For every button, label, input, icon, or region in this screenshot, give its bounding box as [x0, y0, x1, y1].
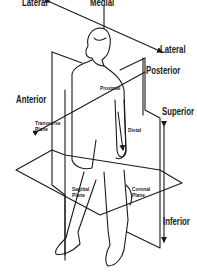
label-lateral-left: Lateral [22, 0, 48, 8]
label-coronal-plane: Coronal Plane [132, 186, 150, 199]
label-inferior: Inferior [163, 217, 190, 227]
human-figure-head [86, 28, 110, 66]
human-figure-right-leg [104, 170, 128, 266]
label-distal: Distal [128, 127, 141, 133]
transverse-plane [16, 150, 182, 215]
proximal-distal-arrow [118, 112, 123, 150]
lateral-axis-arrow [50, 2, 162, 52]
label-superior: Superior [162, 107, 194, 117]
diagram-line-art [0, 0, 197, 280]
label-posterior: Posterior [146, 66, 180, 76]
human-figure-left-leg [56, 172, 96, 255]
label-sagittal-plane: Sagittal Plane [72, 186, 89, 199]
label-anterior: Anterior [16, 95, 46, 105]
label-transverse-plane: Transverse Plane [35, 120, 60, 133]
sagittal-plane [52, 52, 65, 260]
label-lateral-right: Lateral [160, 45, 186, 55]
anatomy-diagram: Lateral Medial Lateral Posterior Anterio… [0, 0, 197, 280]
label-proximal: Proximal [100, 85, 120, 91]
label-medial: Medial [90, 0, 114, 8]
